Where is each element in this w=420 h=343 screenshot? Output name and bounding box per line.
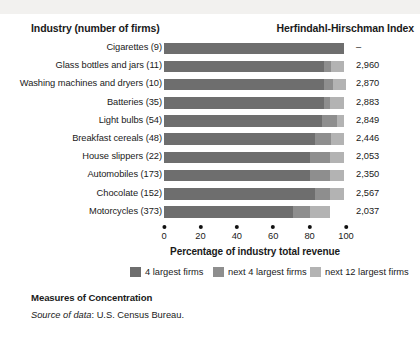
tick-dot-icon: [271, 225, 275, 229]
tick-dot-icon: [162, 225, 166, 229]
industry-label: Chocolate (152): [0, 188, 162, 198]
hhi-value: 2,037: [356, 206, 414, 216]
x-axis-tick: 40: [232, 225, 242, 241]
bar-segment: [164, 133, 315, 145]
stacked-bar: [164, 115, 346, 127]
legend-label: next 12 largest firms: [325, 267, 409, 277]
stacked-bar: [164, 61, 346, 73]
hhi-value: 2,883: [356, 97, 414, 107]
chart-row: Light bulbs (54)2,849: [0, 113, 420, 131]
chart-row: Cigarettes (9)–: [0, 40, 420, 58]
legend-swatch-icon: [130, 267, 141, 277]
legend-item: 4 largest firms: [130, 267, 203, 277]
x-axis-tick-label: 60: [268, 231, 278, 241]
chart-row: Automobiles (173)2,350: [0, 167, 420, 185]
stacked-bar: [164, 97, 346, 109]
tick-dot-icon: [198, 225, 202, 229]
caption-source: Source of data: U.S. Census Bureau.: [31, 310, 184, 320]
bar-segment: [330, 188, 345, 200]
x-axis-tick: 20: [195, 225, 205, 241]
hhi-value: 2,870: [356, 78, 414, 88]
caption-title: Measures of Concentration: [31, 292, 152, 303]
chart-row: Glass bottles and jars (11)2,960: [0, 58, 420, 76]
industry-label: House slippers (22): [0, 151, 162, 161]
bar-segment: [164, 43, 344, 55]
bar-segment: [330, 152, 345, 164]
bar-segment: [337, 115, 344, 127]
hhi-value: –: [356, 42, 414, 52]
caption-source-label: Source of data: [31, 310, 91, 320]
bar-segment: [333, 79, 346, 91]
bar-segment: [310, 170, 330, 182]
industry-column-header: Industry (number of firms): [31, 22, 160, 34]
x-axis-tick-label: 100: [338, 231, 354, 241]
legend-label: next 4 largest firms: [228, 267, 307, 277]
x-axis-tick: 100: [338, 225, 354, 241]
stacked-bar: [164, 152, 346, 164]
chart-row: Washing machines and dryers (10)2,870: [0, 76, 420, 94]
bar-segment: [164, 115, 322, 127]
bar-segment: [331, 61, 344, 73]
bar-segment: [330, 97, 345, 109]
hhi-value: 2,053: [356, 151, 414, 161]
figure-header: Industry (number of firms) Herfindahl-Hi…: [0, 22, 420, 36]
bar-segment: [310, 152, 330, 164]
bar-segment: [315, 133, 331, 145]
chart-row: Batteries (35)2,883: [0, 95, 420, 113]
tick-dot-icon: [235, 225, 239, 229]
chart-row: Motorcycles (373)2,037: [0, 204, 420, 222]
stacked-bar: [164, 133, 346, 145]
bar-segment: [310, 206, 330, 218]
x-axis-tick: 0: [161, 225, 166, 241]
chart-row: Chocolate (152)2,567: [0, 186, 420, 204]
industry-label: Breakfast cereals (48): [0, 133, 162, 143]
hhi-value: 2,849: [356, 115, 414, 125]
bar-rows: Cigarettes (9)–Glass bottles and jars (1…: [0, 40, 420, 222]
stacked-bar: [164, 170, 346, 182]
bar-segment: [324, 61, 331, 73]
bar-segment: [293, 206, 309, 218]
stacked-bar: [164, 188, 346, 200]
industry-label: Automobiles (173): [0, 169, 162, 179]
industry-label: Light bulbs (54): [0, 115, 162, 125]
bar-segment: [164, 170, 310, 182]
x-axis: Percentage of industry total revenue 020…: [0, 225, 420, 259]
x-axis-tick-label: 20: [195, 231, 205, 241]
x-axis-tick: 80: [304, 225, 314, 241]
industry-label: Washing machines and dryers (10): [0, 78, 162, 88]
x-axis-tick-label: 80: [304, 231, 314, 241]
hhi-value: 2,567: [356, 188, 414, 198]
industry-label: Motorcycles (373): [0, 206, 162, 216]
industry-label: Cigarettes (9): [0, 42, 162, 52]
bar-segment: [164, 61, 324, 73]
bar-segment: [164, 79, 324, 91]
bar-segment: [331, 133, 344, 145]
bar-segment: [164, 206, 293, 218]
concentration-figure: Industry (number of firms) Herfindahl-Hi…: [0, 14, 420, 290]
hhi-value: 2,446: [356, 133, 414, 143]
x-axis-tick-label: 0: [161, 231, 166, 241]
paper-top-margin: [0, 0, 420, 14]
tick-dot-icon: [344, 225, 348, 229]
legend-swatch-icon: [213, 267, 224, 277]
bar-segment: [324, 79, 333, 91]
tick-dot-icon: [308, 225, 312, 229]
bar-segment: [164, 97, 324, 109]
bar-segment: [315, 188, 330, 200]
x-axis-tick: 60: [268, 225, 278, 241]
stacked-bar: [164, 206, 346, 218]
bar-segment: [164, 152, 310, 164]
legend-item: next 4 largest firms: [213, 267, 307, 277]
hhi-column-header: Herfindahl-Hirschman Index: [277, 22, 414, 34]
bar-segment: [164, 188, 315, 200]
x-axis-title: Percentage of industry total revenue: [164, 246, 346, 257]
industry-label: Glass bottles and jars (11): [0, 60, 162, 70]
legend-label: 4 largest firms: [145, 267, 203, 277]
bar-segment: [330, 170, 345, 182]
chart-row: Breakfast cereals (48)2,446: [0, 131, 420, 149]
chart-row: House slippers (22)2,053: [0, 149, 420, 167]
bar-segment: [322, 115, 337, 127]
hhi-value: 2,960: [356, 60, 414, 70]
legend-swatch-icon: [310, 267, 321, 277]
industry-label: Batteries (35): [0, 97, 162, 107]
